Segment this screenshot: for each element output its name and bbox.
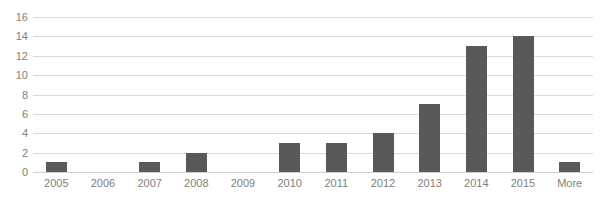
y-tick-label: 6 (2, 108, 28, 119)
y-tick-label: 0 (2, 167, 28, 178)
x-axis: 2005200620072008200920102011201220132014… (33, 176, 593, 196)
y-axis: 0246810121416 (0, 17, 28, 172)
y-tick-label: 10 (2, 70, 28, 81)
x-tick-label: 2015 (500, 176, 546, 190)
y-tick-label: 12 (2, 50, 28, 61)
x-tick-label: 2013 (407, 176, 453, 190)
bar (186, 153, 207, 172)
bar (419, 104, 440, 172)
x-tick-label: 2011 (313, 176, 359, 190)
bar (513, 36, 534, 172)
bar-series (33, 17, 593, 172)
y-tick-label: 4 (2, 128, 28, 139)
x-tick-label: 2009 (220, 176, 266, 190)
y-tick-label: 8 (2, 89, 28, 100)
bar (373, 133, 394, 172)
y-tick-label: 16 (2, 12, 28, 23)
bar-chart: 0246810121416 20052006200720082009201020… (0, 0, 607, 212)
bar (139, 162, 160, 172)
gridline-0 (33, 172, 593, 173)
x-tick-label: More (547, 176, 593, 190)
x-tick-label: 2008 (173, 176, 219, 190)
y-tick-label: 2 (2, 147, 28, 158)
bar (466, 46, 487, 172)
x-tick-label: 2010 (267, 176, 313, 190)
x-tick-label: 2014 (453, 176, 499, 190)
bar (326, 143, 347, 172)
bar (279, 143, 300, 172)
bar (46, 162, 67, 172)
x-tick-label: 2005 (33, 176, 79, 190)
x-tick-label: 2007 (127, 176, 173, 190)
x-tick-label: 2012 (360, 176, 406, 190)
y-tick-label: 14 (2, 31, 28, 42)
x-tick-label: 2006 (80, 176, 126, 190)
plot-area (33, 17, 593, 172)
bar (559, 162, 580, 172)
